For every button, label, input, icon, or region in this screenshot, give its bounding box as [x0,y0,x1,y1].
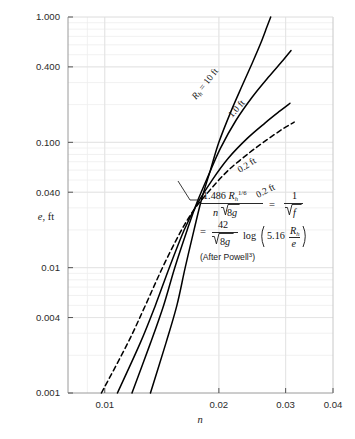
y-tick-label: 0.001 [36,387,60,398]
x-axis-title: n [197,414,202,425]
y-tick-label: 0.400 [36,61,60,72]
y-axis-title: e, ft [38,211,54,222]
log-log-chart: 1.0000.4000.1000.0400.010.0040.001 0.010… [0,0,355,439]
formula-equals-2: = [200,226,206,237]
formula-radicand-1: 8g [227,207,237,218]
x-tick-label: 0.04 [324,399,343,410]
formula-numerator-2: 42 [218,219,228,230]
chart-container: 1.0000.4000.1000.0400.010.0040.001 0.010… [0,0,355,439]
formula-arg-coefficient: 5.16 [267,230,285,241]
y-tick-label: 1.000 [36,11,60,22]
y-tick-label: 0.004 [36,312,61,323]
source-attribution: (After Powell3) [200,251,255,262]
y-tick-label: 0.100 [36,137,60,148]
formula-arg-denominator: e [292,238,297,249]
formula-equals-1: = [269,199,275,210]
source-attribution-close: ) [252,252,255,262]
y-tick-label: 0.040 [36,187,60,198]
formula-rhs-numerator-1: 1 [292,190,297,201]
formula-log-operator: log [243,230,256,241]
y-tick-label: 0.01 [41,262,60,273]
x-tick-label: 0.01 [95,399,114,410]
source-attribution-main: (After Powell [200,252,249,262]
x-tick-label: 0.03 [276,399,295,410]
formula-denominator-1: n [213,207,218,218]
formula-radicand-2: 8g [220,236,230,247]
x-tick-label: 0.02 [210,399,229,410]
